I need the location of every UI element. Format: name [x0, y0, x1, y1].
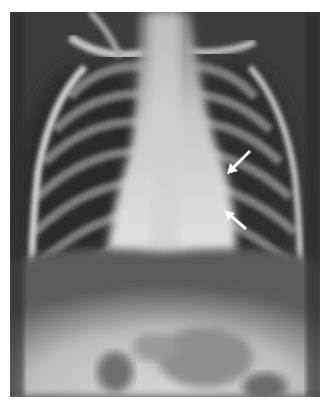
chest-xray-image	[10, 12, 320, 397]
